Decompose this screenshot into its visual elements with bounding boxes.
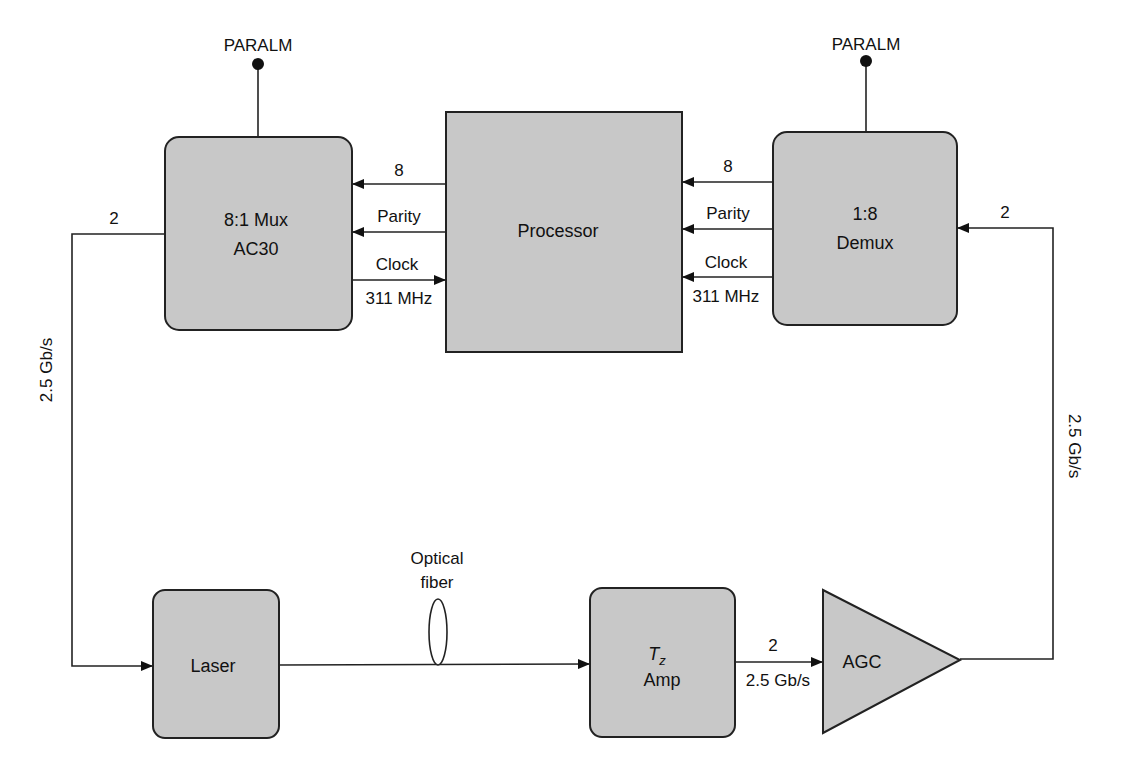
data-width-label: 8 xyxy=(394,161,403,180)
optical-fiber-link: Optical fiber xyxy=(279,549,589,665)
clock-label: Clock xyxy=(705,253,748,272)
proc-mux-bus: 8 Parity Clock 311 MHz xyxy=(353,161,446,308)
processor-block: Processor xyxy=(446,112,682,352)
laser-label: Laser xyxy=(190,656,235,676)
clock-label: Clock xyxy=(376,255,419,274)
laser-block: Laser xyxy=(153,590,279,738)
demux-proc-bus: 8 Parity Clock 311 MHz xyxy=(683,157,773,306)
data-width-label: 8 xyxy=(723,157,732,176)
fiber-label-line1: Optical xyxy=(411,549,464,568)
link-rate-label: 2.5 Gb/s xyxy=(746,671,810,690)
fiber-coil-icon xyxy=(429,599,447,665)
demux-label-line1: 1:8 xyxy=(852,204,877,224)
clock-freq-label: 311 MHz xyxy=(693,287,760,306)
block-diagram: PARALM PARALM 8:1 Mux AC30 Processor 1:8… xyxy=(0,0,1121,775)
demux-block: 1:8 Demux xyxy=(773,132,957,325)
link-width-label: 2 xyxy=(109,209,118,228)
demux-label-line2: Demux xyxy=(836,233,893,253)
agc-label: AGC xyxy=(842,652,881,672)
terminal-dot-icon xyxy=(252,58,264,70)
tz-amp-block: Tz Amp xyxy=(590,588,735,737)
tz-amp-label-line2: Amp xyxy=(643,670,680,690)
mux-label-line1: 8:1 Mux xyxy=(224,210,288,230)
parity-label: Parity xyxy=(706,204,750,223)
parity-label: Parity xyxy=(377,207,421,226)
clock-freq-label: 311 MHz xyxy=(366,289,433,308)
demux-paralm-label: PARALM xyxy=(832,35,901,54)
amp-to-agc-link: 2 2.5 Gb/s xyxy=(735,636,822,690)
fiber-label-line2: fiber xyxy=(420,573,453,592)
processor-label: Processor xyxy=(517,221,598,241)
mux-paralm-terminal: PARALM xyxy=(224,36,293,137)
link-width-label: 2 xyxy=(768,636,777,655)
demux-paralm-terminal: PARALM xyxy=(832,35,901,132)
link-rate-label: 2.5 Gb/s xyxy=(37,338,56,402)
mux-label-line2: AC30 xyxy=(233,239,278,259)
agc-block: AGC xyxy=(823,590,960,733)
mux-paralm-label: PARALM xyxy=(224,36,293,55)
link-width-label: 2 xyxy=(1000,203,1009,222)
mux-to-laser-link: 2 2.5 Gb/s xyxy=(37,209,165,666)
terminal-dot-icon xyxy=(860,55,872,67)
mux-block: 8:1 Mux AC30 xyxy=(165,137,352,330)
link-rate-label: 2.5 Gb/s xyxy=(1065,414,1084,478)
agc-to-demux-link: 2 2.5 Gb/s xyxy=(958,203,1084,659)
